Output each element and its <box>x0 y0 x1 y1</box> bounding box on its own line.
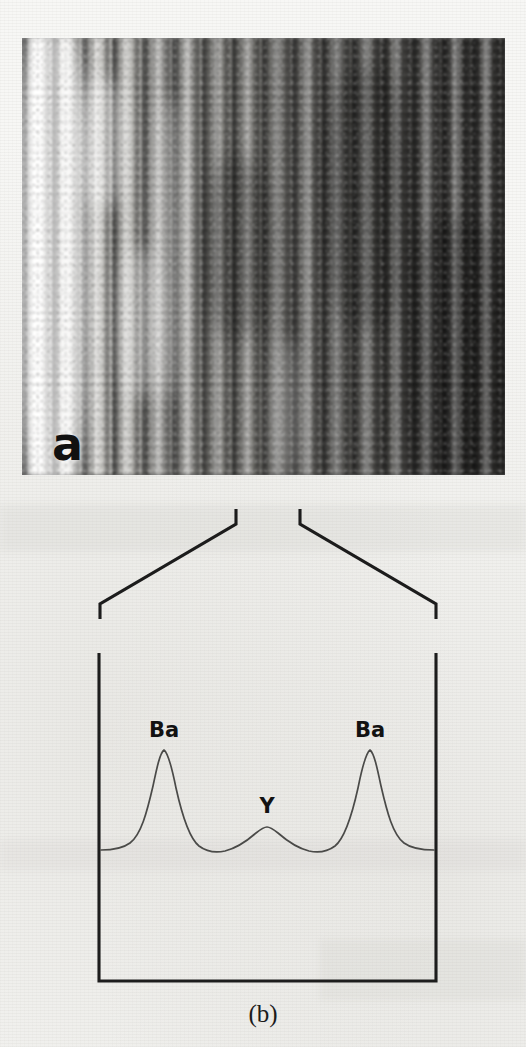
peak-label-y: Y <box>258 794 275 818</box>
figure-root: a Ba Y Ba (b) <box>0 0 526 1047</box>
peak-label-ba-right: Ba <box>355 718 385 742</box>
peak-label-ba-left: Ba <box>149 718 179 742</box>
schematic-diagram: Ba Y Ba <box>0 0 526 1047</box>
leader-line-left <box>100 509 236 619</box>
leader-line-right <box>300 509 436 619</box>
panel-caption-b: (b) <box>0 1000 526 1028</box>
panel-label-a: a <box>52 421 82 467</box>
